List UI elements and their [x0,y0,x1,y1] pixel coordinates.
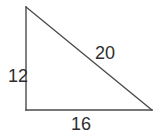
hypotenuse-line [26,7,152,110]
hypotenuse-label: 20 [95,44,115,62]
horizontal-leg-label: 16 [71,115,91,133]
vertical-leg-label: 12 [8,67,28,85]
triangle-figure: 12 20 16 [0,0,157,139]
